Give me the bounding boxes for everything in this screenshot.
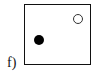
hollow-dot [73, 14, 83, 24]
panel-frame [24, 4, 91, 65]
panel-label: f) [7, 55, 16, 71]
filled-dot [34, 35, 44, 45]
